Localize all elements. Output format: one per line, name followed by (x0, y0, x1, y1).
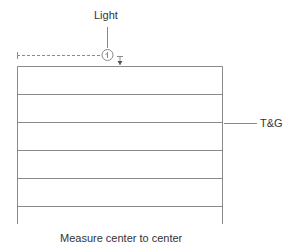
diagram-canvas (0, 0, 299, 245)
caption: Measure center to center (60, 232, 182, 244)
arrow-down-icon (118, 61, 123, 65)
light-label: Light (94, 9, 118, 21)
tg-label: T&G (260, 117, 283, 129)
